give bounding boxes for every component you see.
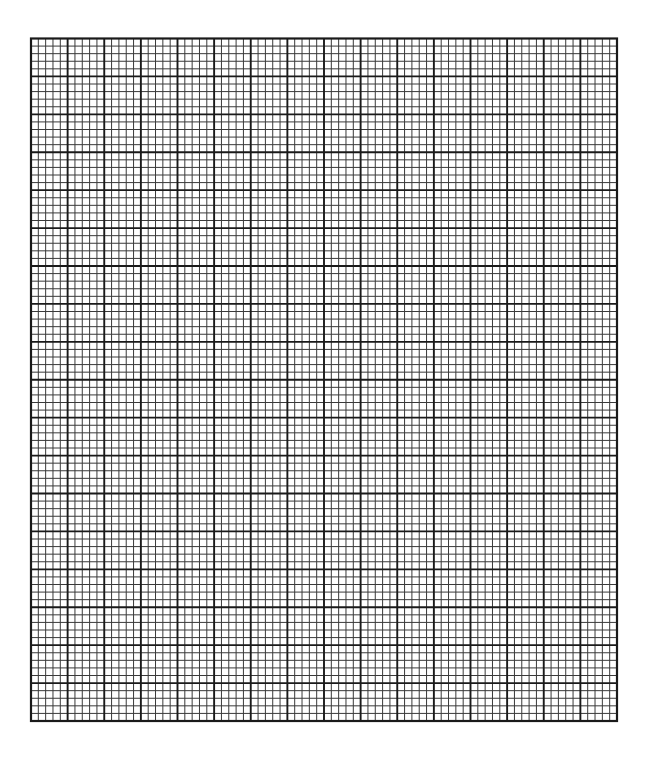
graph-paper-page xyxy=(0,0,649,762)
graph-paper-grid xyxy=(0,0,649,762)
